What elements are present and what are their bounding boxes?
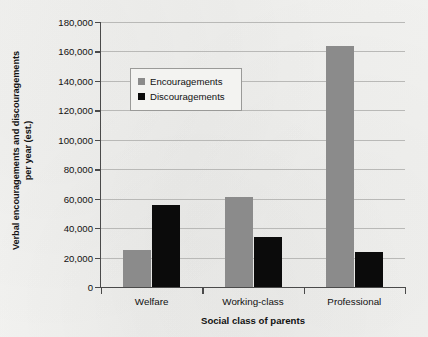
y-axis-tick-label: 160,000: [33, 46, 93, 57]
y-axis-tick-label: 0: [33, 282, 93, 293]
x-axis-tick: [405, 288, 406, 294]
y-axis-tick-label: 60,000: [33, 193, 93, 204]
y-axis-tick: [95, 81, 101, 82]
bar-working-class-encouragements: [225, 197, 253, 287]
y-axis-tick: [95, 258, 101, 259]
y-axis-tick: [95, 140, 101, 141]
legend-label-discouragements: Discouragements: [150, 91, 225, 102]
gridline: [101, 22, 405, 23]
x-axis-category-label-professional: Professional: [327, 296, 381, 307]
legend-swatch-discouragements: [138, 93, 145, 100]
gridline: [101, 199, 405, 200]
y-axis-tick-label: 40,000: [33, 223, 93, 234]
bar-professional-discouragements: [355, 252, 383, 287]
bar-welfare-discouragements: [152, 205, 180, 287]
x-axis-tick: [202, 288, 203, 294]
y-axis-tick: [95, 110, 101, 111]
y-axis-tick: [95, 22, 101, 23]
gridline: [101, 140, 405, 141]
chart-legend: EncouragementsDiscouragements: [130, 68, 242, 111]
x-axis-category-label-welfare: Welfare: [135, 296, 169, 307]
y-axis-tick-label: 100,000: [33, 134, 93, 145]
bar-professional-encouragements: [326, 46, 354, 287]
legend-label-encouragements: Encouragements: [150, 76, 223, 87]
y-axis-tick-label: 120,000: [33, 105, 93, 116]
y-axis-tick-label: 80,000: [33, 164, 93, 175]
y-axis-tick: [95, 169, 101, 170]
y-axis-tick: [95, 199, 101, 200]
y-axis-title-line-1: Verbal encouragements and discouragement…: [12, 50, 24, 249]
x-axis-category-label-working-class: Working-class: [222, 296, 283, 307]
plot-area: [101, 22, 405, 287]
y-axis-tick-label: 20,000: [33, 252, 93, 263]
x-axis-tick: [101, 288, 102, 294]
y-axis-tick: [95, 228, 101, 229]
bar-working-class-discouragements: [254, 237, 282, 287]
y-axis-tick-labels: 020,00040,00060,00080,000100,000120,0001…: [29, 0, 93, 337]
legend-swatch-encouragements: [138, 78, 145, 85]
y-axis-tick-label: 140,000: [33, 75, 93, 86]
gridline: [101, 228, 405, 229]
bar-chart-figure: Verbal encouragements and discouragement…: [0, 0, 428, 337]
y-axis-tick-label: 180,000: [33, 17, 93, 28]
bar-welfare-encouragements: [123, 250, 151, 287]
gridline: [101, 51, 405, 52]
y-axis-tick: [95, 51, 101, 52]
x-axis-title: Social class of parents: [101, 315, 405, 326]
y-axis-tick: [95, 287, 101, 288]
gridline: [101, 169, 405, 170]
legend-item-discouragements: Discouragements: [138, 89, 234, 104]
x-axis-tick: [304, 288, 305, 294]
legend-item-encouragements: Encouragements: [138, 74, 234, 89]
x-axis-line: [100, 287, 406, 288]
